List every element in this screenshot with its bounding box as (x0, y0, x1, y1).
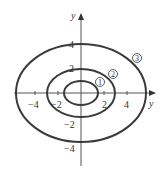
y-tick-label: 4 (69, 39, 74, 50)
ellipse-diagram: y y −4 −2 2 4 4 2 −2 −4 1 2 3 (0, 0, 162, 176)
curve-1-badge-label: 1 (98, 78, 102, 87)
x-tick-label: 2 (102, 99, 107, 110)
x-axis-label: y (148, 98, 154, 109)
y-tick-label: −4 (64, 143, 75, 154)
y-axis-label: y (70, 10, 76, 21)
x-tick-label: −2 (51, 99, 62, 110)
x-axis-arrow-icon (149, 90, 156, 96)
x-tick-label: −4 (28, 99, 39, 110)
y-axis-arrow-icon (78, 13, 84, 20)
y-tick-label: 2 (69, 63, 74, 74)
x-tick-label: 4 (124, 99, 129, 110)
curve-2-badge-label: 2 (111, 70, 115, 79)
curve-3-badge-label: 3 (135, 54, 139, 63)
y-tick-label: −2 (64, 119, 75, 130)
